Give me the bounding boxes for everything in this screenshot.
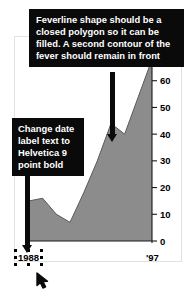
- y-axis-label: 50: [160, 102, 171, 113]
- selection-handle[interactable]: [14, 263, 17, 266]
- x-axis-label-start[interactable]: 1988: [18, 252, 39, 263]
- arrow-head-icon: [107, 134, 117, 142]
- mouse-cursor-icon: [36, 272, 50, 294]
- y-axis-label: 60: [160, 75, 171, 86]
- arrow-stem: [110, 72, 115, 134]
- x-axis-label-end[interactable]: '97: [146, 252, 159, 263]
- y-axis-label: 20: [160, 182, 171, 193]
- selection-handle[interactable]: [40, 263, 43, 266]
- chart-y-tickmarks: [152, 54, 157, 241]
- selection-handle[interactable]: [40, 256, 43, 259]
- selection-handle[interactable]: [40, 249, 43, 252]
- y-axis-label: 0: [160, 236, 165, 247]
- y-axis-label: 30: [160, 155, 171, 166]
- arrow-head-icon: [22, 245, 32, 253]
- screenshot-canvas: 010203040506070 1988 '97 Feverline shape…: [0, 0, 194, 299]
- selection-handle[interactable]: [27, 263, 30, 266]
- callout-date-label[interactable]: Change date label text to Helvetica 9 po…: [12, 118, 84, 176]
- callout-feverline[interactable]: Feverline shape should be a closed polyg…: [29, 9, 184, 67]
- selection-handle[interactable]: [14, 249, 17, 252]
- y-axis-label: 40: [160, 129, 171, 140]
- selection-handle[interactable]: [14, 256, 17, 259]
- y-axis-label: 10: [160, 209, 171, 220]
- arrow-stem: [25, 170, 30, 245]
